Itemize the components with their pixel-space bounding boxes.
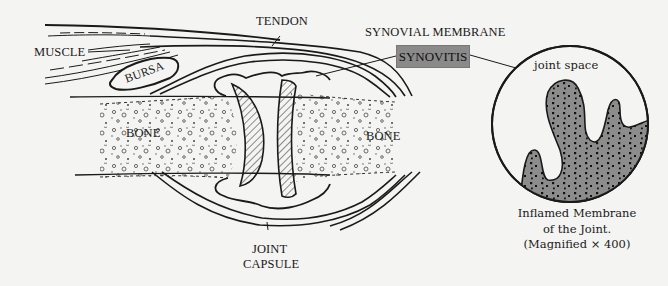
label-bone-right: BONE	[366, 130, 400, 143]
cartilage-left	[232, 84, 264, 186]
label-synovitis: SYNOVITIS	[399, 49, 468, 65]
label-synovial-membrane: SYNOVIAL MEMBRANE	[365, 26, 505, 39]
bone-left	[100, 96, 237, 178]
caption-line-1: Inflamed Membrane	[512, 206, 642, 222]
label-bone-left: BONE	[126, 127, 160, 140]
caption-line-2: of the Joint.	[512, 222, 642, 238]
cartilage-right	[278, 80, 297, 197]
label-capsule: CAPSULE	[243, 258, 299, 271]
label-joint: JOINT	[252, 243, 287, 256]
label-joint-space: joint space	[534, 60, 598, 72]
caption-line-3: (Magnified × 400)	[512, 237, 642, 253]
synovitis-highlight-box: SYNOVITIS	[396, 45, 470, 68]
joint-diagram: MUSCLE TENDON BURSA SYNOVIAL MEMBRANE SY…	[0, 0, 668, 286]
label-tendon: TENDON	[256, 15, 308, 28]
label-muscle: MUSCLE	[34, 46, 85, 59]
inset-caption: Inflamed Membrane of the Joint. (Magnifi…	[512, 206, 642, 253]
